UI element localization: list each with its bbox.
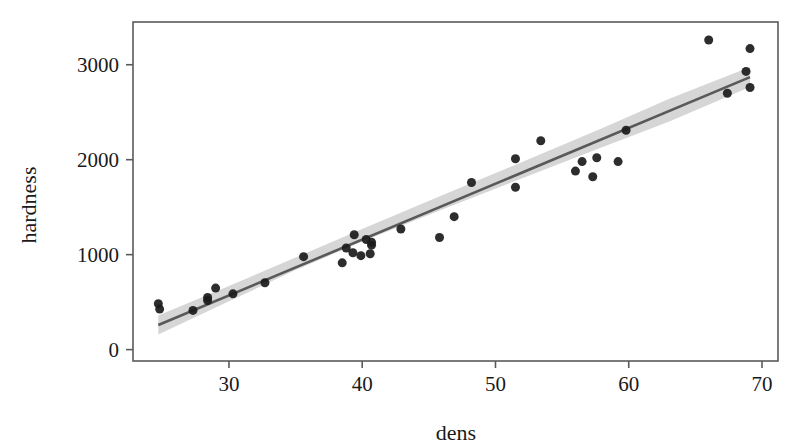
regression-line: [158, 77, 750, 325]
data-point: [260, 278, 269, 287]
scatter-plot: 3040506070 0100020003000 dens hardness: [0, 0, 811, 447]
x-tick-label: 30: [218, 372, 239, 396]
data-point: [188, 306, 197, 315]
data-point: [622, 126, 631, 135]
data-point: [704, 36, 713, 45]
data-point: [588, 172, 597, 181]
data-point: [396, 225, 405, 234]
y-tick-label: 0: [109, 338, 120, 362]
data-point: [742, 67, 751, 76]
data-point: [211, 284, 220, 293]
data-point: [536, 136, 545, 145]
data-point: [366, 249, 375, 258]
x-tick-label: 50: [485, 372, 506, 396]
data-point: [571, 167, 580, 176]
data-point: [356, 251, 365, 260]
data-point: [578, 157, 587, 166]
data-point: [367, 238, 376, 247]
x-axis-ticks: 3040506070: [218, 361, 772, 396]
data-point: [746, 44, 755, 53]
x-tick-label: 60: [618, 372, 639, 396]
data-point: [350, 230, 359, 239]
y-tick-label: 3000: [77, 53, 119, 77]
data-point: [511, 154, 520, 163]
data-point: [511, 183, 520, 192]
y-axis-title: hardness: [16, 167, 41, 244]
data-point: [723, 89, 732, 98]
data-points: [154, 36, 755, 315]
data-point: [450, 212, 459, 221]
data-point: [746, 83, 755, 92]
data-point: [299, 252, 308, 261]
fit-line: [158, 77, 750, 325]
y-tick-label: 2000: [77, 148, 119, 172]
data-point: [348, 248, 357, 257]
x-tick-label: 70: [752, 372, 773, 396]
data-point: [228, 289, 237, 298]
data-point: [155, 305, 164, 314]
data-point: [614, 157, 623, 166]
chart-figure: 3040506070 0100020003000 dens hardness: [0, 0, 811, 447]
x-axis-title: dens: [436, 420, 476, 445]
y-tick-label: 1000: [77, 243, 119, 267]
data-point: [467, 178, 476, 187]
data-point: [338, 258, 347, 267]
x-tick-label: 40: [352, 372, 373, 396]
data-point: [592, 153, 601, 162]
y-axis-ticks: 0100020003000: [77, 53, 133, 362]
data-point: [435, 233, 444, 242]
data-point: [203, 293, 212, 302]
